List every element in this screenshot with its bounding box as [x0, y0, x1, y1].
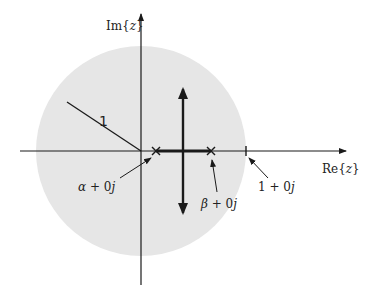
- real-axis-label: Re{z}: [322, 163, 360, 175]
- z-plane-diagram: Im{z} Re{z} 1 α + 0j β + 0j 1 + 0j: [0, 0, 365, 302]
- diagram-canvas: [0, 0, 365, 302]
- unit-point-pointer-arrow: [249, 158, 268, 178]
- radius-label: 1: [99, 114, 108, 128]
- pole-alpha-label: α + 0j: [78, 181, 115, 193]
- unit-point-label: 1 + 0j: [258, 181, 295, 193]
- pole-beta-label: β + 0j: [201, 198, 237, 210]
- imaginary-axis-label: Im{z}: [106, 20, 144, 32]
